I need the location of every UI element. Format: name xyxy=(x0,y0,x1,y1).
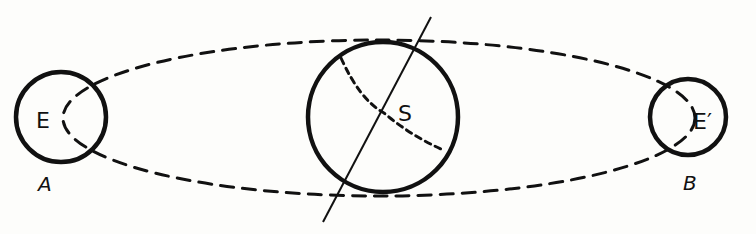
sun-dashed-arc xyxy=(341,58,441,149)
sun-circle xyxy=(308,42,458,192)
orbit-ellipse xyxy=(63,40,695,196)
earth-b-label: E′ xyxy=(693,109,712,134)
position-b-label: B xyxy=(683,171,697,195)
earth-a-label: E xyxy=(36,108,50,133)
sun-label: S xyxy=(398,101,412,126)
orbit-diagram: S E A E′ B xyxy=(0,0,756,234)
earth-a-circle xyxy=(16,72,106,162)
earth-b-circle xyxy=(650,79,726,155)
position-a-label: A xyxy=(36,172,52,196)
